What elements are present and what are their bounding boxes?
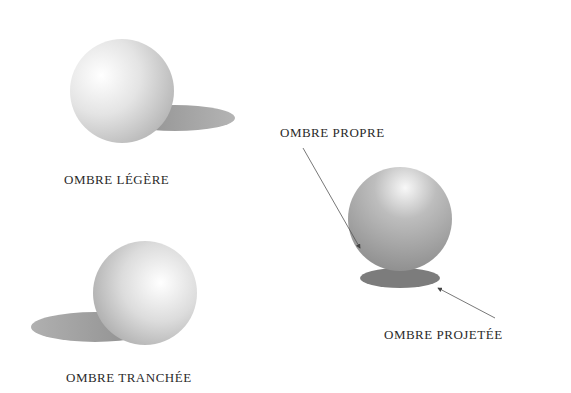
sphere-own-cast-shadow — [348, 167, 452, 288]
label-ombre-projetee: OMBRE PROJETÉE — [384, 327, 503, 343]
label-ombre-propre: OMBRE PROPRE — [280, 125, 385, 141]
label-ombre-legere: OMBRE LÉGÈRE — [64, 172, 169, 188]
sphere-light-shadow — [70, 39, 235, 143]
label-ombre-tranchee: OMBRE TRANCHÉE — [66, 370, 192, 386]
sphere-sharp-shadow — [31, 241, 197, 345]
arrow-cast-shadow — [438, 288, 495, 318]
arrow-own-shadow — [303, 148, 360, 248]
